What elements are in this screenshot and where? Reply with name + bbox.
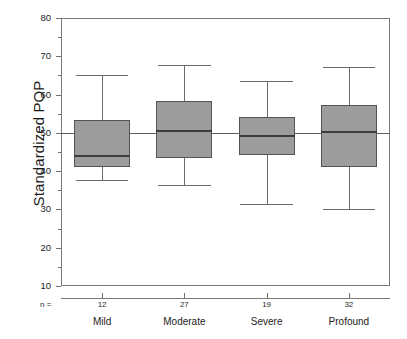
n-count-moderate: 27	[154, 300, 214, 309]
x-tick-mark	[184, 293, 185, 298]
y-tick-label: 50	[40, 126, 51, 139]
n-count-profound: 32	[319, 300, 379, 309]
lower-whisker-line	[349, 167, 350, 209]
n-count-severe: 19	[237, 300, 297, 309]
x-axis-label-mild: Mild	[62, 316, 142, 327]
y-tick-mark	[56, 56, 61, 57]
lower-whisker-line	[267, 155, 268, 203]
lower-whisker-cap	[158, 185, 211, 186]
lower-whisker-line	[102, 167, 103, 179]
y-minor-tick-mark	[58, 37, 61, 38]
upper-whisker-cap	[158, 65, 211, 66]
x-tick-mark	[267, 293, 268, 298]
lower-whisker-cap	[323, 209, 376, 210]
iqr-box	[321, 105, 377, 167]
y-tick-mark	[56, 286, 61, 287]
median-line	[156, 130, 212, 132]
y-tick-mark	[56, 209, 61, 210]
iqr-box	[74, 120, 130, 167]
upper-whisker-cap	[240, 81, 293, 82]
lower-whisker-line	[184, 158, 185, 185]
y-minor-tick-mark	[58, 267, 61, 268]
y-tick-mark	[56, 18, 61, 19]
median-line	[74, 155, 130, 157]
y-tick-label: 80	[40, 11, 51, 24]
x-axis-label-severe: Severe	[227, 316, 307, 327]
y-minor-tick-mark	[58, 114, 61, 115]
y-minor-tick-mark	[58, 152, 61, 153]
x-tick-mark	[102, 293, 103, 298]
lower-whisker-cap	[240, 204, 293, 205]
x-axis-label-profound: Profound	[309, 316, 389, 327]
x-tick-mark	[349, 293, 350, 298]
upper-whisker-cap	[323, 67, 376, 68]
n-count-mild: 12	[72, 300, 132, 309]
median-line	[239, 135, 295, 137]
y-minor-tick-mark	[58, 75, 61, 76]
y-minor-tick-mark	[58, 190, 61, 191]
x-axis-label-moderate: Moderate	[144, 316, 224, 327]
upper-whisker-line	[102, 75, 103, 120]
upper-whisker-line	[184, 65, 185, 102]
y-tick-label: 10	[40, 279, 51, 292]
y-tick-label: 40	[40, 164, 51, 177]
median-line	[321, 131, 377, 133]
boxplot-chart: Standardized POP 1020304050607080 n = 12…	[0, 0, 407, 339]
n-prefix-label: n =	[40, 300, 51, 309]
y-tick-mark	[56, 95, 61, 96]
y-tick-label: 60	[40, 88, 51, 101]
y-tick-mark	[56, 248, 61, 249]
y-minor-tick-mark	[58, 229, 61, 230]
y-tick-label: 70	[40, 49, 51, 62]
upper-whisker-line	[267, 81, 268, 117]
y-tick-label: 30	[40, 202, 51, 215]
y-axis-title: Standardized POP	[30, 34, 47, 254]
lower-whisker-cap	[76, 180, 129, 181]
upper-whisker-cap	[76, 75, 129, 76]
y-tick-label: 20	[40, 241, 51, 254]
upper-whisker-line	[349, 67, 350, 104]
y-tick-mark	[56, 171, 61, 172]
x-axis-line	[61, 298, 390, 299]
